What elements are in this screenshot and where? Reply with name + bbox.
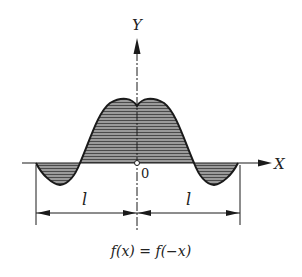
dimension-left [36,210,137,216]
x-axis-arrow-icon [258,160,272,167]
y-axis-label: Y [132,16,144,34]
origin-marker [135,161,140,166]
x-axis-label: X [273,155,286,173]
dimension-right-label: l [186,190,191,209]
y-axis-arrow-icon [134,38,141,54]
dimension-left-label: l [82,190,87,209]
origin-label: 0 [141,166,149,181]
dimension-right [137,210,240,216]
caption: f(x) = f(−x) [110,243,191,259]
even-function-diagram: Y X 0 l l f(x) = f(−x) [0,0,302,277]
